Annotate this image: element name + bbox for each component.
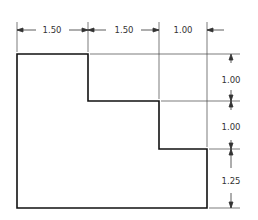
vertical-extension-lines (90, 54, 240, 208)
dim-label-v3: 1.25 (222, 176, 241, 186)
dim-label-h1: 1.50 (43, 25, 62, 35)
part-outline (17, 54, 207, 208)
stepped-profile-drawing: 1.50 1.50 1.00 1.00 1.00 1.25 (0, 0, 258, 220)
dim-label-h3: 1.00 (174, 25, 193, 35)
dim-label-h2: 1.50 (115, 25, 134, 35)
dim-label-v1: 1.00 (222, 75, 241, 85)
dim-label-v2: 1.00 (222, 122, 241, 132)
horizontal-extension-lines (17, 22, 207, 147)
